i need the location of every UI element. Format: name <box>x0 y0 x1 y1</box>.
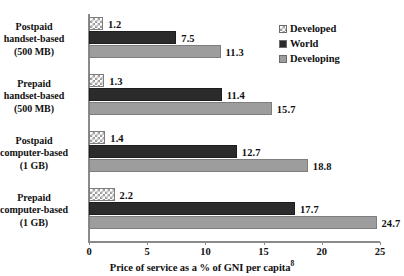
category-label-line: Prepaid <box>0 78 82 90</box>
x-tick-label: 25 <box>375 246 386 257</box>
bar-developing <box>89 45 221 58</box>
x-tick-mark <box>89 242 90 245</box>
bar-value-label: 11.3 <box>226 46 244 57</box>
x-tick-mark <box>380 242 381 245</box>
bar-developed <box>89 131 105 144</box>
bar-row-developed: 1.3 <box>89 74 380 87</box>
bar-row-world: 12.7 <box>89 145 380 158</box>
bar-value-label: 1.2 <box>108 18 121 29</box>
bar-value-label: 1.3 <box>109 75 122 86</box>
x-tick-mark <box>205 242 206 245</box>
legend-label-developing: Developing <box>290 53 340 64</box>
category-label-line: computer-based <box>0 147 82 159</box>
category-label-line: handset-based <box>0 33 82 45</box>
x-tick-label: 0 <box>86 246 91 257</box>
x-tick-mark <box>147 242 148 245</box>
category-label: Prepaidhandset-based(500 MB) <box>0 78 82 115</box>
bar-value-label: 15.7 <box>277 103 296 114</box>
bar-value-label: 12.7 <box>242 146 261 157</box>
legend-item-developed: Developed <box>279 22 340 35</box>
legend-swatch-world-icon <box>279 40 287 48</box>
bar-world <box>89 31 176 44</box>
bar-chart: 1.27.511.31.311.415.71.412.718.82.217.72… <box>0 0 404 276</box>
x-axis-title-footnote: 8 <box>290 259 294 268</box>
chart-legend: Developed World Developing <box>279 22 340 67</box>
bar-world <box>89 88 222 101</box>
category-label: Postpaidcomputer-based(1 GB) <box>0 135 82 172</box>
bar-row-world: 11.4 <box>89 88 380 101</box>
legend-swatch-developing-icon <box>279 55 287 63</box>
x-tick-label: 20 <box>317 246 328 257</box>
bar-row-developing: 15.7 <box>89 102 380 115</box>
bar-value-label: 18.8 <box>313 160 332 171</box>
bar-value-label: 2.2 <box>120 189 133 200</box>
legend-item-developing: Developing <box>279 52 340 65</box>
x-tick-mark <box>264 242 265 245</box>
bar-value-label: 11.4 <box>227 89 245 100</box>
bar-row-developed: 1.4 <box>89 131 380 144</box>
legend-label-world: World <box>290 38 318 49</box>
x-tick-mark <box>322 242 323 245</box>
x-tick-label: 10 <box>200 246 211 257</box>
bar-value-label: 1.4 <box>110 132 123 143</box>
legend-item-world: World <box>279 37 340 50</box>
bar-developed <box>89 17 103 30</box>
bar-developed <box>89 188 115 201</box>
x-axis-title-text: Price of service as a % of GNI per capit… <box>110 262 291 273</box>
category-label-line: computer-based <box>0 204 82 216</box>
bar-row-developing: 24.7 <box>89 216 380 229</box>
bar-row-world: 17.7 <box>89 202 380 215</box>
bar-developed <box>89 74 104 87</box>
category-label-line: (1 GB) <box>0 217 82 229</box>
category-label-line: (500 MB) <box>0 46 82 58</box>
category-label-line: handset-based <box>0 90 82 102</box>
bar-developing <box>89 102 272 115</box>
bar-value-label: 17.7 <box>300 203 319 214</box>
category-label: Postpaidhandset-based(500 MB) <box>0 21 82 58</box>
category-label-line: Postpaid <box>0 21 82 33</box>
category-label-line: (500 MB) <box>0 103 82 115</box>
bar-group: 1.412.718.8 <box>89 128 380 185</box>
bar-row-developing: 18.8 <box>89 159 380 172</box>
x-tick-label: 5 <box>145 246 150 257</box>
legend-swatch-developed-icon <box>279 25 287 33</box>
category-label-line: Prepaid <box>0 192 82 204</box>
x-axis-title: Price of service as a % of GNI per capit… <box>0 259 404 273</box>
bar-row-developed: 2.2 <box>89 188 380 201</box>
category-label: Prepaidcomputer-based(1 GB) <box>0 192 82 229</box>
bar-developing <box>89 216 377 229</box>
bar-group: 2.217.724.7 <box>89 185 380 242</box>
x-tick-label: 15 <box>258 246 269 257</box>
bar-value-label: 7.5 <box>181 32 194 43</box>
bar-developing <box>89 159 308 172</box>
bar-world <box>89 202 295 215</box>
bar-group: 1.311.415.7 <box>89 71 380 128</box>
category-label-line: Postpaid <box>0 135 82 147</box>
legend-label-developed: Developed <box>290 23 336 34</box>
bar-world <box>89 145 237 158</box>
bar-value-label: 24.7 <box>382 217 401 228</box>
category-label-line: (1 GB) <box>0 160 82 172</box>
